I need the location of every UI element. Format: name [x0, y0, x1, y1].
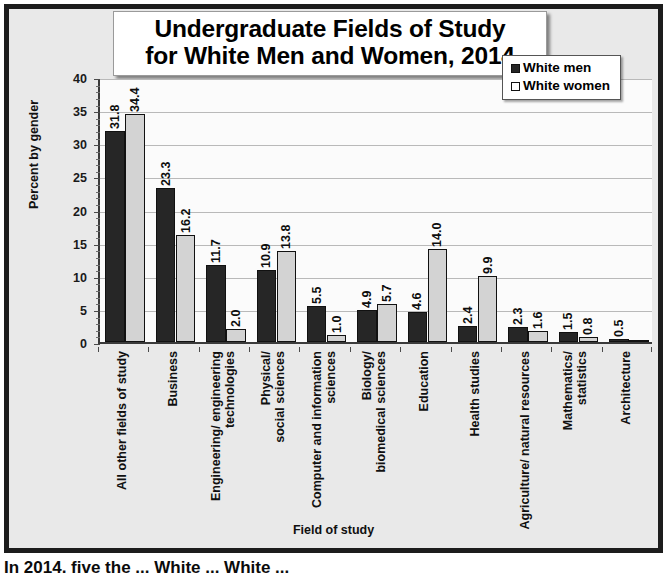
y-axis-minor-tick [96, 92, 100, 93]
x-axis-tick [148, 347, 149, 352]
legend-swatch-square-icon [511, 64, 520, 73]
y-axis-tick [94, 79, 100, 80]
bar-value-label: 14.0 [430, 223, 444, 247]
bar-value-label: 34.4 [128, 88, 142, 112]
y-axis-minor-tick [96, 132, 100, 133]
bar-white-women: 1.0 [327, 335, 347, 342]
bar-value-label: 2.0 [229, 309, 243, 326]
y-axis-tick [94, 112, 100, 113]
y-axis-tick-label: 10 [53, 271, 87, 285]
legend-label-white-men: White men [523, 59, 591, 77]
bar-value-label: 0.5 [612, 319, 626, 336]
bar-white-women: 0.8 [579, 337, 599, 342]
chart-title-line-2: for White Men and Women, 2014 [120, 42, 540, 69]
y-axis-tick [94, 344, 100, 345]
bar-value-label: 10.9 [259, 243, 273, 267]
x-axis-category-label: Physical/social sciences [261, 351, 289, 443]
bar-value-label: 9.9 [481, 257, 495, 274]
y-axis-minor-tick [96, 298, 100, 299]
x-axis-tick [451, 347, 452, 352]
chart-legend: White men White women [502, 55, 621, 100]
x-axis-category-label: All other fields of study [116, 351, 130, 490]
bar-white-men: 2.3 [508, 327, 528, 342]
x-axis-tick [551, 347, 552, 352]
y-axis-minor-tick [96, 271, 100, 272]
x-axis-categories: All other fields of studyBusinessEnginee… [98, 347, 652, 522]
x-axis-tick [98, 347, 99, 352]
y-axis-minor-tick [96, 284, 100, 285]
chart-title-line-1: Undergraduate Fields of Study [120, 15, 540, 42]
x-axis-category-label: Mathematics/statistics [563, 351, 591, 430]
legend-item-white-women: White women [511, 77, 610, 95]
figure-caption-text: In 2014, five the ... White ... White ..… [0, 558, 667, 573]
y-axis-minor-tick [96, 231, 100, 232]
y-axis-tick-label: 5 [53, 304, 87, 318]
y-axis-minor-tick [96, 99, 100, 100]
x-axis-category-label: Education [418, 351, 432, 411]
bar-white-women: 14.0 [428, 249, 448, 342]
y-axis-minor-tick [96, 265, 100, 266]
bar-white-women: 2.0 [226, 329, 246, 342]
y-axis-tick-label: 35 [53, 105, 87, 119]
y-axis-minor-tick [96, 331, 100, 332]
y-axis-minor-tick [96, 159, 100, 160]
y-axis-minor-tick [96, 291, 100, 292]
bar-value-label: 13.8 [279, 224, 293, 248]
y-axis-tick-label: 20 [53, 205, 87, 219]
legend-item-white-men: White men [511, 59, 610, 77]
y-axis-minor-tick [96, 185, 100, 186]
bar-white-men: 10.9 [257, 270, 277, 342]
y-axis-minor-tick [96, 86, 100, 87]
bar-value-label: 2.4 [461, 307, 475, 324]
bar-white-women [629, 340, 649, 342]
bar-white-men: 4.9 [357, 310, 377, 342]
bar-value-label: 1.5 [561, 313, 575, 330]
y-axis-minor-tick [96, 119, 100, 120]
y-axis-minor-tick [96, 205, 100, 206]
bar-value-label: 16.2 [179, 208, 193, 232]
y-axis-tick [94, 145, 100, 146]
y-axis-minor-tick [96, 258, 100, 259]
y-axis-tick [94, 178, 100, 179]
bar-white-men: 31.8 [105, 131, 125, 342]
y-axis-tick-label: 40 [53, 72, 87, 86]
y-axis-minor-tick [96, 324, 100, 325]
bar-white-women: 16.2 [176, 235, 196, 342]
bar-white-men: 11.7 [206, 265, 226, 343]
bar-white-men: 0.5 [609, 339, 629, 342]
y-axis-minor-tick [96, 172, 100, 173]
x-axis-category-label: Agriculture/ natural resources [519, 351, 533, 530]
x-axis-tick [602, 347, 603, 352]
bar-white-men: 2.4 [458, 326, 478, 342]
bar-white-women: 13.8 [277, 251, 297, 342]
x-axis-title: Field of study [9, 523, 658, 537]
bar-value-label: 1.6 [531, 312, 545, 329]
bar-value-label: 4.6 [410, 292, 424, 309]
gridline [100, 112, 652, 113]
y-axis-minor-tick [96, 125, 100, 126]
x-axis-tick [249, 347, 250, 352]
y-axis-tick-label: 15 [53, 238, 87, 252]
y-axis-tick-label: 0 [53, 337, 87, 351]
chart-frame: Undergraduate Fields of Study for White … [4, 4, 663, 553]
bar-value-label: 31.8 [108, 105, 122, 129]
y-axis-minor-tick [96, 225, 100, 226]
figure-caption: In 2014, five the ... White ... White ..… [0, 558, 667, 573]
gridline [100, 178, 652, 179]
gridline [100, 145, 652, 146]
y-axis-minor-tick [96, 165, 100, 166]
y-axis-minor-tick [96, 192, 100, 193]
bar-white-women: 34.4 [125, 114, 145, 342]
bar-value-label: 5.7 [380, 285, 394, 302]
x-axis-tick [400, 347, 401, 352]
y-axis-minor-tick [96, 218, 100, 219]
bar-value-label: 4.9 [360, 290, 374, 307]
legend-swatch-square-icon [511, 82, 520, 91]
y-axis-minor-tick [96, 139, 100, 140]
bar-value-label: 2.3 [511, 307, 525, 324]
plot-area: 31.834.423.316.211.72.010.913.85.51.04.9… [98, 79, 652, 344]
y-axis-minor-tick [96, 106, 100, 107]
x-axis-category-label: Health studies [469, 351, 483, 436]
y-axis-minor-tick [96, 304, 100, 305]
y-axis-tick [94, 311, 100, 312]
